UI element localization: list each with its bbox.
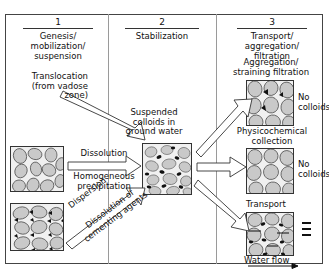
- column-rule-3: [237, 28, 307, 29]
- column-rule-1: [23, 28, 93, 29]
- column-header-1: 1 Genesis/ mobilization/ suspension: [14, 17, 102, 61]
- aggregation-filtration-box: [246, 80, 294, 126]
- label-physicochemical-collection: Physicochemical collection: [228, 127, 316, 146]
- column-number-2: 2: [118, 17, 206, 28]
- label-aggregation-filtration: Aggregation/ straining filtration: [222, 58, 320, 77]
- column-divider-2: [216, 14, 217, 264]
- label-water-flow: Water flow: [244, 256, 304, 266]
- water-flow-dashes: [302, 222, 311, 240]
- column-rule-2: [125, 28, 199, 29]
- suspended-colloids-box: [142, 143, 192, 195]
- column-header-2: 2 Stabilization: [118, 17, 206, 41]
- column-number-3: 3: [230, 17, 314, 28]
- column-caption-2: Stabilization: [118, 31, 206, 41]
- transport-waterflow-box: [246, 212, 294, 256]
- label-translocation: Translocation (from vadose zone): [10, 72, 88, 101]
- cemented-grains-box: [10, 203, 64, 251]
- label-dissolution: Dissolution: [70, 149, 138, 159]
- physicochemical-collection-box: [246, 148, 294, 194]
- unconsolidated-grains-box: [10, 146, 64, 192]
- column-header-3: 3 Transport/ aggregation/ filtration: [230, 17, 314, 61]
- column-caption-1: Genesis/ mobilization/ suspension: [14, 31, 102, 61]
- label-no-colloids-top: No colloids: [298, 93, 328, 112]
- column-number-1: 1: [14, 17, 102, 28]
- label-transport: Transport: [246, 200, 306, 210]
- label-no-colloids-mid: No colloids: [298, 160, 328, 179]
- label-suspended-colloids: Suspended colloids in ground water: [118, 108, 190, 137]
- figure-root: 1 Genesis/ mobilization/ suspension 2 St…: [0, 0, 329, 275]
